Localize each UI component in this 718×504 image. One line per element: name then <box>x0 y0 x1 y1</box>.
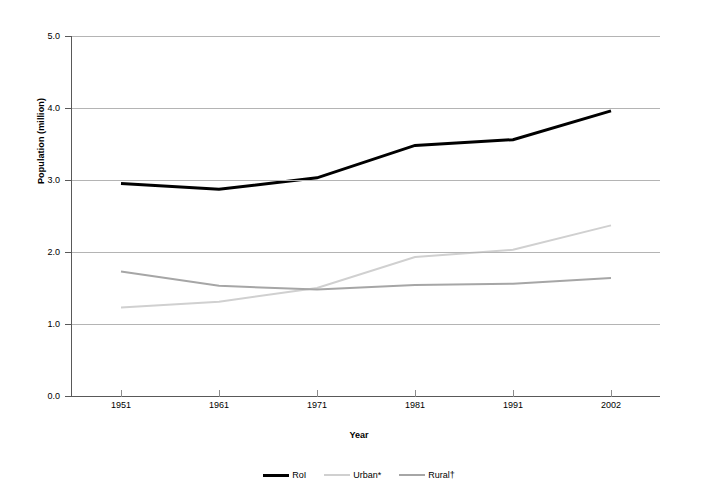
y-tick-label: 4.0 <box>24 103 60 113</box>
chart-legend: RoIUrban*Rural† <box>0 470 718 480</box>
legend-label: RoI <box>292 470 306 480</box>
y-tick-label: 0.0 <box>24 391 60 401</box>
series-layer <box>72 36 660 396</box>
y-axis-title: Population (million) <box>36 61 46 221</box>
gridline <box>72 36 660 37</box>
x-tick-mark <box>611 390 612 397</box>
legend-swatch-icon <box>324 474 350 476</box>
legend-item[interactable]: Rural† <box>399 470 455 480</box>
y-tick-mark <box>65 108 72 109</box>
x-tick-label: 2002 <box>581 400 641 410</box>
x-tick-label: 1981 <box>385 400 445 410</box>
series-line <box>121 271 611 289</box>
gridline <box>72 108 660 109</box>
legend-swatch-icon <box>263 474 289 477</box>
x-axis-title: Year <box>0 430 718 440</box>
chart-figure: Population (million) 0.01.02.03.04.05.0 … <box>0 0 718 504</box>
x-tick-mark <box>415 390 416 397</box>
plot-area <box>72 36 660 396</box>
gridline <box>72 396 660 397</box>
x-tick-mark <box>317 390 318 397</box>
gridline <box>72 180 660 181</box>
x-tick-label: 1991 <box>483 400 543 410</box>
x-tick-mark <box>513 390 514 397</box>
y-tick-mark <box>65 396 72 397</box>
series-line <box>121 225 611 307</box>
legend-item[interactable]: RoI <box>263 470 306 480</box>
series-line <box>121 111 611 189</box>
y-tick-label: 1.0 <box>24 319 60 329</box>
legend-label: Urban* <box>353 470 381 480</box>
y-tick-label: 3.0 <box>24 175 60 185</box>
y-tick-mark <box>65 252 72 253</box>
y-tick-label: 2.0 <box>24 247 60 257</box>
y-tick-mark <box>65 324 72 325</box>
y-tick-mark <box>65 180 72 181</box>
x-tick-mark <box>121 390 122 397</box>
x-tick-label: 1951 <box>91 400 151 410</box>
legend-item[interactable]: Urban* <box>324 470 381 480</box>
gridline <box>72 324 660 325</box>
y-tick-mark <box>65 36 72 37</box>
legend-label: Rural† <box>428 470 455 480</box>
legend-swatch-icon <box>399 474 425 476</box>
x-tick-label: 1961 <box>189 400 249 410</box>
y-tick-label: 5.0 <box>24 31 60 41</box>
x-tick-label: 1971 <box>287 400 347 410</box>
gridline <box>72 252 660 253</box>
x-tick-mark <box>219 390 220 397</box>
